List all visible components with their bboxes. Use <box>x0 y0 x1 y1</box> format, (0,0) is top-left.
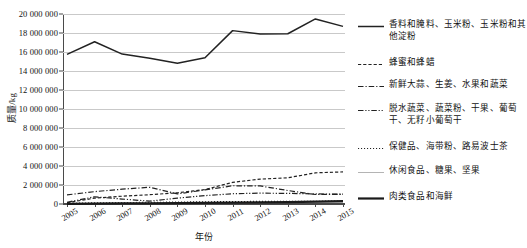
legend-line-swatch <box>358 192 384 205</box>
y-tick-label: 10 000 000 <box>19 104 58 114</box>
x-axis-label: 年份 <box>63 230 345 243</box>
legend-label: 新鲜大蒜、生姜、水果和蔬菜 <box>389 79 527 91</box>
plot-area: 质量/kg 02 000 0004 000 0006 000 0008 000 … <box>0 9 360 248</box>
x-tick-label: 2015 <box>336 206 356 223</box>
x-tick-label: 2013 <box>280 206 300 223</box>
y-tick-label: 6 000 000 <box>23 142 58 152</box>
legend-item-2[interactable]: 蜂蜜和蜂蜡 <box>358 57 527 71</box>
cropped-header-text <box>0 0 527 9</box>
x-tick-mark <box>233 204 234 207</box>
legend: 香料和腌料、玉米粉、玉米粉和其他淀粉蜂蜜和蜂蜡新鲜大蒜、生姜、水果和蔬菜脱水蔬菜… <box>358 9 527 248</box>
legend-label: 休闲食品、糖果、坚果 <box>389 165 527 177</box>
x-tick-label: 2011 <box>225 206 244 223</box>
legend-item-4[interactable]: 脱水蔬菜、蔬菜粉、干果、葡萄干、无籽小葡萄干 <box>358 103 527 126</box>
series-lines <box>63 14 345 204</box>
series-line-1 <box>67 19 343 63</box>
legend-label: 脱水蔬菜、蔬菜粉、干果、葡萄干、无籽小葡萄干 <box>389 103 527 126</box>
y-tick-label: 12 000 000 <box>19 85 58 95</box>
x-tick-label: 2005 <box>60 206 80 223</box>
x-tick-mark <box>260 204 261 207</box>
legend-label: 肉类食品和海鲜 <box>389 191 527 203</box>
legend-line-swatch <box>358 80 384 93</box>
series-line-3 <box>67 186 343 195</box>
y-tick-label: 8 000 000 <box>23 123 58 133</box>
chart-figure: 质量/kg 02 000 0004 000 0006 000 0008 000 … <box>0 0 527 248</box>
legend-line-swatch <box>358 104 384 117</box>
legend-label: 保健品、海带粉、路易波士茶 <box>389 141 527 153</box>
legend-line-swatch <box>358 166 384 179</box>
y-tick-label: 20 000 000 <box>19 9 58 19</box>
x-tick-mark <box>177 204 178 207</box>
x-tick-mark <box>315 204 316 207</box>
x-tick-mark <box>343 204 344 207</box>
x-tick-mark <box>205 204 206 207</box>
legend-line-swatch <box>358 58 384 71</box>
x-tick-label: 2014 <box>308 206 328 223</box>
y-tick-label: 16 000 000 <box>19 47 58 57</box>
y-tick-label: 4 000 000 <box>23 161 58 171</box>
x-tick-mark <box>150 204 151 207</box>
y-tick-label: 2 000 000 <box>23 180 58 190</box>
x-tick-mark <box>288 204 289 207</box>
x-tick-label: 2010 <box>198 206 218 223</box>
x-tick-label: 2009 <box>170 206 190 223</box>
legend-item-3[interactable]: 新鲜大蒜、生姜、水果和蔬菜 <box>358 79 527 93</box>
legend-item-1[interactable]: 香料和腌料、玉米粉、玉米粉和其他淀粉 <box>358 19 527 42</box>
legend-label: 蜂蜜和蜂蜡 <box>389 57 527 69</box>
legend-item-5[interactable]: 保健品、海带粉、路易波士茶 <box>358 141 527 155</box>
legend-item-7[interactable]: 肉类食品和海鲜 <box>358 191 527 205</box>
legend-item-6[interactable]: 休闲食品、糖果、坚果 <box>358 165 527 179</box>
y-tick-label: 18 000 000 <box>19 28 58 38</box>
axes: 02 000 0004 000 0006 000 0008 000 00010 … <box>63 14 345 204</box>
x-tick-label: 2012 <box>253 206 273 223</box>
legend-line-swatch <box>358 20 384 33</box>
y-tick-label: 14 000 000 <box>19 66 58 76</box>
y-axis-label: 质量/kg <box>5 78 19 138</box>
legend-line-swatch <box>358 142 384 155</box>
legend-label: 香料和腌料、玉米粉、玉米粉和其他淀粉 <box>389 19 527 42</box>
x-tick-label: 2006 <box>87 206 107 223</box>
x-tick-label: 2007 <box>115 206 135 223</box>
x-tick-label: 2008 <box>142 206 162 223</box>
y-tick-label: 0 <box>54 199 58 209</box>
